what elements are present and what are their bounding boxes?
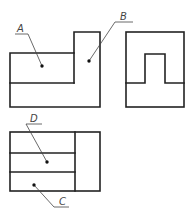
front-view — [10, 32, 100, 107]
front-view-outline — [10, 32, 100, 107]
top-view — [10, 132, 100, 191]
dot-d — [45, 160, 48, 163]
label-c: C — [59, 196, 66, 207]
side-view — [126, 32, 184, 107]
top-view-outline — [10, 132, 100, 191]
label-b: B — [120, 11, 127, 22]
callout-c: C — [32, 183, 69, 207]
dot-c — [32, 183, 35, 186]
callout-d: D — [26, 113, 49, 164]
label-a: A — [16, 23, 24, 34]
dot-b — [87, 59, 90, 62]
dot-a — [40, 64, 43, 67]
leader-a — [15, 34, 42, 66]
leader-d — [26, 124, 47, 162]
label-d: D — [30, 113, 38, 124]
side-view-outline — [126, 32, 184, 107]
callout-a: A — [15, 23, 44, 68]
side-view-slot — [126, 54, 184, 83]
three-view-drawing: A B D C — [0, 0, 195, 217]
